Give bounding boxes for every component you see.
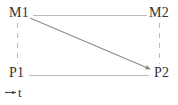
node-label-p2: P2	[154, 66, 169, 80]
node-label-p1: P1	[9, 66, 24, 80]
time-axis-label: t	[18, 86, 22, 99]
node-label-m1: M1	[9, 6, 29, 20]
node-label-m2: M2	[149, 6, 169, 20]
edge-m1-p2-arrow	[30, 18, 150, 69]
diagram-canvas: M1 M2 P1 P2 t	[0, 0, 178, 105]
